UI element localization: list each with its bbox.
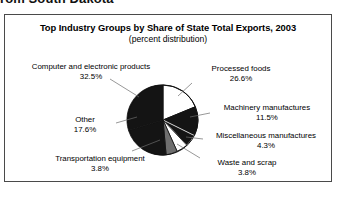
pie-label-processed-foods: Processed foods 26.6% <box>196 64 286 83</box>
pie-label-value: 17.6% <box>57 125 113 135</box>
pie-label-miscellaneous-manufactures: Miscellaneous manufactures 4.3% <box>204 131 328 150</box>
pie-label-machinery-manufactures: Machinery manufactures 11.5% <box>214 103 320 122</box>
pie-label-name: Machinery manufactures <box>214 103 320 113</box>
pie-label-value: 11.5% <box>214 113 320 123</box>
pie-label-name: Processed foods <box>196 64 286 74</box>
page-heading-partial: rom South Dakota <box>0 0 200 6</box>
pie-label-name: Transportation equipment <box>42 154 158 164</box>
pie-label-value: 3.8% <box>42 164 158 174</box>
pie-label-value: 26.6% <box>196 74 286 84</box>
chart-title: Top Industry Groups by Share of State To… <box>5 22 331 33</box>
pie-label-waste-and-scrap: Waste and scrap 3.8% <box>204 158 290 177</box>
pie-label-other: Other 17.6% <box>57 115 113 134</box>
pie-label-name: Other <box>57 115 113 125</box>
pie-label-value: 32.5% <box>30 72 152 82</box>
pie-label-name: Computer and electronic products <box>30 62 152 72</box>
pie-label-name: Miscellaneous manufactures <box>204 131 328 141</box>
pie-label-transportation-equipment: Transportation equipment 3.8% <box>42 154 158 173</box>
pie-label-value: 3.8% <box>204 168 290 178</box>
pie-label-value: 4.3% <box>204 141 328 151</box>
chart-subtitle: (percent distribution) <box>5 34 331 44</box>
pie-label-computer-and-electronic-products: Computer and electronic products 32.5% <box>30 62 152 81</box>
pie-label-name: Waste and scrap <box>204 158 290 168</box>
